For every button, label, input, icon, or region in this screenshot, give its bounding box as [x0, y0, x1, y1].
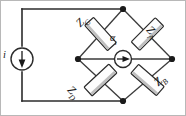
label-supply-source: i [3, 50, 6, 61]
label-bridge-source: αi [110, 33, 117, 46]
circuit-figure: ZC ZA ZD ZB αi i [0, 0, 186, 116]
label-supply-source-symbol: i [3, 49, 6, 60]
node-bottom [120, 98, 126, 104]
node-right [169, 56, 175, 62]
node-top [120, 6, 126, 12]
node-left [75, 56, 81, 62]
circuit-schematic-canvas [0, 0, 186, 116]
label-bridge-source-subscript: i [115, 39, 117, 46]
